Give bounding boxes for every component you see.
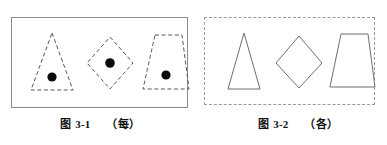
figure-3-2-caption-label: 图: [258, 118, 269, 131]
figure-3-1-caption-label: 图: [60, 118, 71, 131]
center-dot-icon: [105, 58, 115, 68]
figure-3-2-caption: 图3-2（各）: [258, 117, 338, 132]
figure-3-1-panel: [11, 17, 188, 108]
shape-triangle-dotted: [21, 17, 83, 108]
shape-triangle-plain: [212, 17, 274, 105]
trapezoid-icon: [135, 17, 197, 108]
figure-3-1-shape-row: [11, 17, 188, 108]
center-dot-icon: [161, 70, 170, 79]
diamond-icon: [79, 17, 141, 108]
figure-3-2-shape-row: [204, 17, 375, 105]
figure-3-2-panel: [204, 17, 375, 105]
center-dot-icon: [47, 72, 56, 81]
figure-3-2-caption-number: 3-2: [273, 118, 288, 130]
figure-3-2-caption-note: （各）: [304, 118, 338, 131]
shape-diamond-dotted: [79, 17, 141, 108]
triangle-icon: [212, 17, 274, 105]
figure-3-1-caption-number: 3-1: [75, 118, 90, 130]
trapezoid-icon: [322, 17, 384, 105]
shape-trapezoid-plain: [322, 17, 384, 105]
figure-3-1-caption: 图3-1（每）: [60, 117, 140, 132]
shape-trapezoid-dotted: [135, 17, 197, 108]
triangle-icon: [21, 17, 83, 108]
figure-3-1-caption-note: （每）: [106, 118, 140, 131]
